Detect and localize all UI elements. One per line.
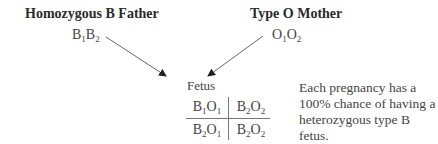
- mother-arrow: [208, 36, 263, 76]
- punnett-cell: B2O1: [187, 122, 227, 138]
- allele-sub: 2: [261, 129, 266, 139]
- allele-base: B: [237, 122, 246, 137]
- allele-sub: 2: [261, 106, 266, 116]
- fetus-label: Fetus: [187, 78, 215, 94]
- punnett-cell: B2O2: [231, 122, 271, 138]
- outcome-note: Each pregnancy has a 100% chance of havi…: [299, 80, 438, 144]
- allele-base: O: [207, 99, 217, 114]
- allele-base: B: [193, 99, 202, 114]
- allele-base: B: [237, 99, 246, 114]
- allele-sub: 1: [217, 106, 222, 116]
- punnett-horizontal-divider: [186, 118, 270, 119]
- allele-base: O: [207, 122, 217, 137]
- allele-base: O: [251, 122, 261, 137]
- allele-sub: 1: [217, 129, 222, 139]
- punnett-cell: B2O2: [231, 99, 271, 115]
- punnett-cell: B1O1: [187, 99, 227, 115]
- allele-base: B: [193, 122, 202, 137]
- father-arrow: [106, 37, 166, 76]
- allele-base: O: [251, 99, 261, 114]
